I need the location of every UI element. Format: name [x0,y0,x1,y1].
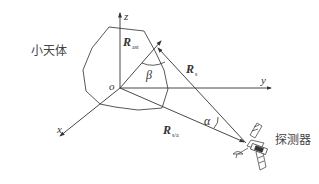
r-sa-vector [120,88,244,142]
z-axis-label: z [124,11,128,22]
r-s-sub: s [195,71,197,77]
origin-label: o [109,81,115,92]
r-sa-sub: s/a [172,132,179,138]
probe-label: 探测器 [275,134,311,146]
beta-label: β [146,69,152,81]
r-sa-label: Rs/a [163,124,179,138]
r-ast-main: R [123,35,131,49]
r-sa-main: R [163,123,171,137]
probe-satellite-icon [233,123,268,170]
r-s-label: Rs [186,63,197,77]
r-ast-sub: ast [132,44,139,50]
r-ast-label: Rast [123,36,139,50]
diagram-graphics [0,0,319,184]
r-s-main: R [186,62,194,76]
diagram-canvas: 小天体 探测器 o z y x β α Rast Rs Rs/a [0,0,319,184]
y-axis-label: y [261,75,266,86]
x-axis-label: x [57,124,62,135]
alpha-arc [214,117,218,128]
small-body-label: 小天体 [31,45,67,57]
alpha-label: α [204,115,210,127]
